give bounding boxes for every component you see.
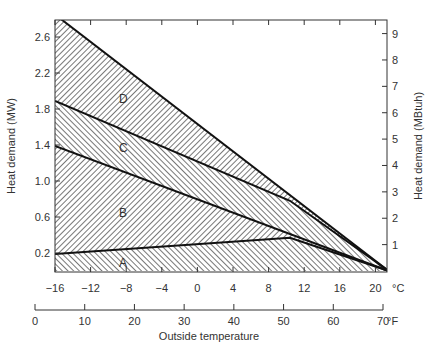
y-right-tick-label: 1 <box>392 239 398 251</box>
y-left-axis-title: Heat demand (MW) <box>5 98 17 194</box>
x-axis-fahrenheit: 010203040506070°F <box>32 304 398 327</box>
y-axis-right: 123456789 <box>382 28 398 251</box>
heat-demand-chart: −16−12−8−4048121620 0.20.61.01.41.82.22.… <box>0 0 438 360</box>
region-label-b: B <box>119 206 127 220</box>
x-tick-label: 12 <box>298 282 310 294</box>
y-right-tick-label: 8 <box>392 54 398 66</box>
x-tick-label: 4 <box>230 282 236 294</box>
y-left-tick-label: 2.2 <box>35 67 50 79</box>
y-right-tick-label: 4 <box>392 159 398 171</box>
x-tick-label: 20 <box>369 282 381 294</box>
top-ticks <box>55 20 375 25</box>
y-right-tick-label: 2 <box>392 212 398 224</box>
y-left-tick-label: 1.4 <box>35 139 50 151</box>
y-right-tick-label: 9 <box>392 28 398 40</box>
x-axis-celsius: −16−12−8−4048121620 <box>46 267 382 294</box>
unit-celsius-label: °C <box>392 282 404 294</box>
x-f-tick-label: 20 <box>128 315 140 327</box>
y-left-tick-label: 0.6 <box>35 211 50 223</box>
y-left-tick-label: 2.6 <box>35 31 50 43</box>
x-f-tick-label: 10 <box>79 315 91 327</box>
x-tick-label: 16 <box>334 282 346 294</box>
unit-fahrenheit-label: °F <box>387 315 398 327</box>
x-f-tick-label: 50 <box>277 315 289 327</box>
region-label-c: C <box>119 141 128 155</box>
y-right-axis-title: Heat demand (MBtuh) <box>412 92 424 200</box>
x-tick-label: −4 <box>156 282 169 294</box>
x-tick-label: 0 <box>194 282 200 294</box>
y-right-tick-label: 5 <box>392 133 398 145</box>
x-tick-label: −8 <box>120 282 133 294</box>
x-f-tick-label: 40 <box>228 315 240 327</box>
x-f-tick-label: 60 <box>327 315 339 327</box>
y-right-tick-label: 3 <box>392 186 398 198</box>
x-axis-title: Outside temperature <box>159 330 259 342</box>
y-left-tick-label: 1.8 <box>35 103 50 115</box>
x-tick-label: 8 <box>266 282 272 294</box>
x-f-tick-label: 0 <box>32 315 38 327</box>
x-f-tick-label: 30 <box>178 315 190 327</box>
y-right-tick-label: 6 <box>392 107 398 119</box>
y-left-tick-label: 1.0 <box>35 175 50 187</box>
y-right-tick-label: 7 <box>392 80 398 92</box>
region-label-a: A <box>119 256 127 270</box>
x-tick-label: −12 <box>81 282 100 294</box>
x-tick-label: −16 <box>46 282 65 294</box>
region-label-d: D <box>119 92 128 106</box>
y-left-tick-label: 0.2 <box>35 247 50 259</box>
